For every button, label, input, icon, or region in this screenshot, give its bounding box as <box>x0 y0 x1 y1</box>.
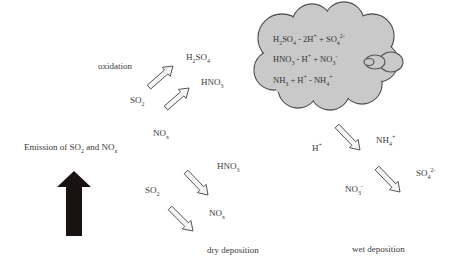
equation-nh3: NH3 + H+ - NH4+ <box>273 76 333 85</box>
emission-arrow-icon <box>57 171 91 236</box>
species-nox: NOx <box>153 129 169 138</box>
wet-species-so4: SO42- <box>416 169 436 178</box>
wet-h-arrow-icon <box>335 124 360 150</box>
species-h2so4: H2SO4 <box>186 53 210 62</box>
species-hno3: HNO3 <box>201 78 224 87</box>
wet-species-nh4: NH4+ <box>376 136 395 145</box>
wet-nh4-arrow-icon <box>375 166 400 192</box>
dry-hno3-arrow-icon <box>184 170 208 195</box>
diagram-graphics <box>0 0 458 267</box>
equation-h2so4: H2SO4 - 2H+ + SO42- <box>273 35 345 44</box>
dry-species-so2: SO2 <box>145 186 160 195</box>
dry-so2-arrow-icon <box>168 206 193 231</box>
wet-species-h: H+ <box>312 144 322 153</box>
acid-deposition-diagram: H2SO4 - 2H+ + SO42- HNO3 - H+ + NO3- NH3… <box>0 0 458 267</box>
dry-species-hno3: HNO3 <box>217 162 240 171</box>
dry-deposition-label: dry deposition <box>207 246 259 255</box>
oxidation-label: oxidation <box>98 62 132 71</box>
wet-deposition-label: wet deposition <box>352 245 405 254</box>
dry-species-nox: NOx <box>209 209 225 218</box>
equation-hno3: HNO3 - H+ + NO3- <box>273 55 337 64</box>
oxidation-so2-arrow-icon <box>147 66 173 89</box>
species-so2: SO2 <box>130 96 145 105</box>
wet-species-no3: NO3- <box>345 185 363 194</box>
oxidation-nox-arrow-icon <box>164 88 189 110</box>
emission-label: Emission of SO2 and NOx <box>24 143 118 152</box>
